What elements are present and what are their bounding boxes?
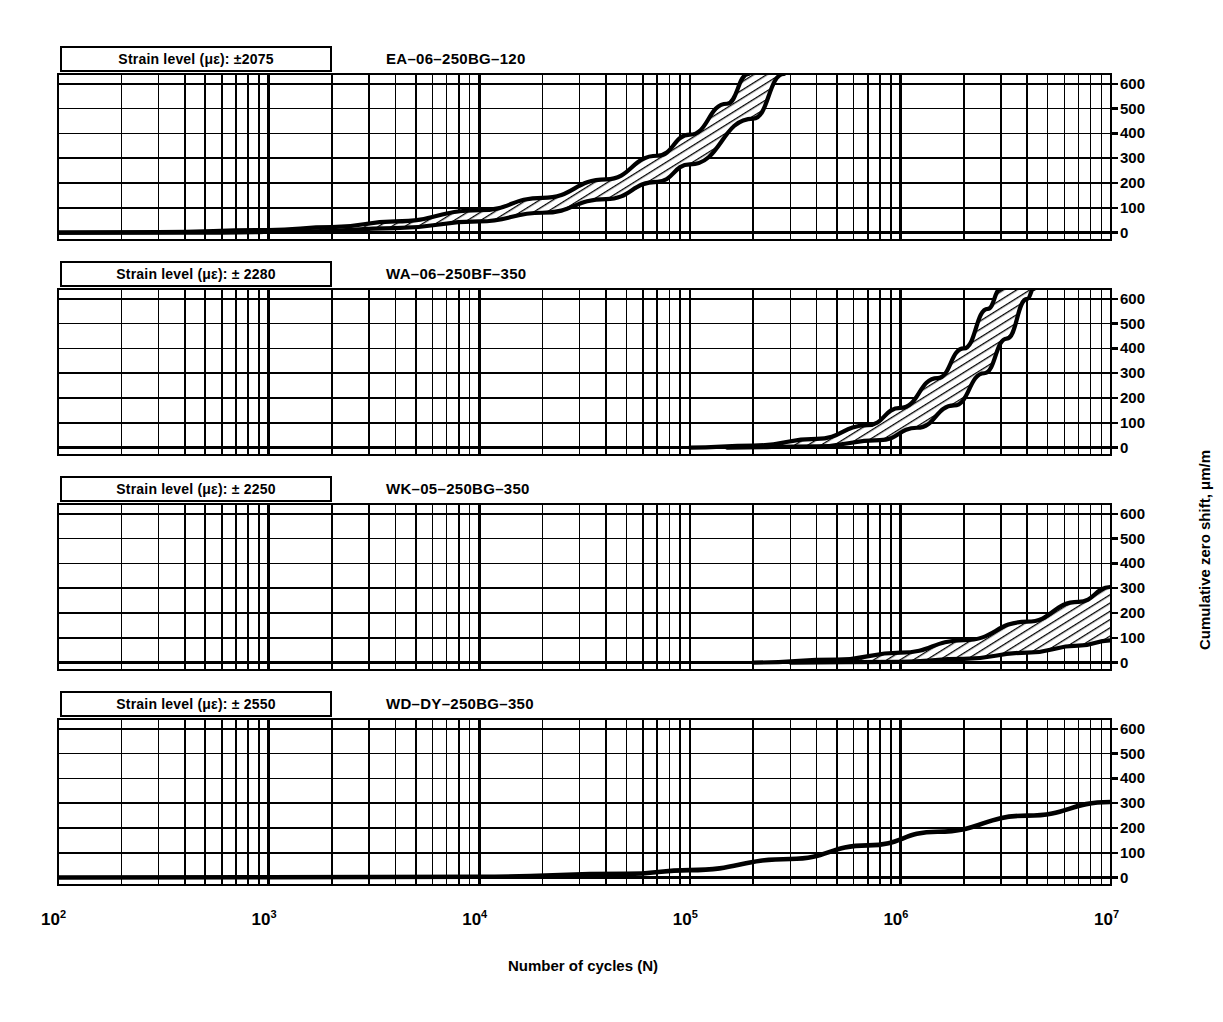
y-tick-label: 500 (1120, 101, 1145, 116)
y-tick-label: 600 (1120, 291, 1145, 306)
y-tick-label: 0 (1120, 440, 1128, 455)
chart-canvas (0, 0, 1223, 1022)
y-tick-label: 500 (1120, 746, 1145, 761)
y-tick-label: 300 (1120, 365, 1145, 380)
y-tick-label: 600 (1120, 506, 1145, 521)
y-tick-label: 0 (1120, 655, 1128, 670)
strain-level-box-panel-3: Strain level (με): ± 2250 (60, 476, 332, 502)
y-tick-label: 300 (1120, 150, 1145, 165)
panel-grid-4 (58, 719, 1111, 885)
gage-title-panel-3: WK–05–250BG–350 (386, 480, 530, 497)
y-tick-label: 500 (1120, 316, 1145, 331)
strain-level-box-panel-4: Strain level (με): ± 2550 (60, 691, 332, 717)
y-tick-label: 200 (1120, 605, 1145, 620)
panel-grid-1 (58, 74, 1111, 240)
x-axis-title: Number of cycles (N) (508, 957, 658, 974)
y-tick-label: 300 (1120, 795, 1145, 810)
figure-root: Strain level (με): ±2075 EA–06–250BG–120… (0, 0, 1223, 1022)
strain-level-box-panel-1: Strain level (με): ±2075 (60, 46, 332, 72)
x-tick-label: 103 (252, 908, 277, 930)
y-tick-label: 0 (1120, 225, 1128, 240)
strain-level-text: Strain level (με): ± 2250 (116, 481, 275, 497)
strain-level-text: Strain level (με): ± 2550 (116, 696, 275, 712)
gage-title-panel-2: WA–06–250BF–350 (386, 265, 526, 282)
gage-title-panel-1: EA–06–250BG–120 (386, 50, 526, 67)
y-tick-label: 400 (1120, 770, 1145, 785)
y-tick-label: 400 (1120, 340, 1145, 355)
y-tick-label: 200 (1120, 820, 1145, 835)
y-tick-label: 300 (1120, 580, 1145, 595)
gage-title-panel-4: WD–DY–250BG–350 (386, 695, 534, 712)
y-tick-label: 200 (1120, 390, 1145, 405)
x-tick-label: 102 (41, 908, 66, 930)
y-tick-label: 0 (1120, 870, 1128, 885)
y-tick-label: 100 (1120, 200, 1145, 215)
x-tick-label: 104 (462, 908, 487, 930)
y-tick-label: 600 (1120, 721, 1145, 736)
y-tick-label: 100 (1120, 630, 1145, 645)
x-tick-label: 106 (883, 908, 908, 930)
y-tick-label: 200 (1120, 175, 1145, 190)
y-tick-label: 100 (1120, 415, 1145, 430)
y-tick-label: 600 (1120, 76, 1145, 91)
y-tick-label: 400 (1120, 125, 1145, 140)
x-tick-label: 107 (1094, 908, 1119, 930)
y-tick-label: 500 (1120, 531, 1145, 546)
strain-level-text: Strain level (με): ± 2280 (116, 266, 275, 282)
strain-level-box-panel-2: Strain level (με): ± 2280 (60, 261, 332, 287)
strain-level-text: Strain level (με): ±2075 (118, 51, 273, 67)
y-tick-label: 100 (1120, 845, 1145, 860)
y-tick-label: 400 (1120, 555, 1145, 570)
y-axis-title: Cumulative zero shift, μm/m (1196, 450, 1213, 650)
x-tick-label: 105 (673, 908, 698, 930)
